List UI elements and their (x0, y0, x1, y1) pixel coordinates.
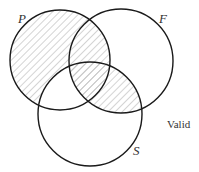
label-p: P (18, 12, 26, 25)
label-f: F (159, 12, 167, 25)
verdict-text: Valid (167, 119, 190, 130)
shaded-region-fs (0, 0, 199, 172)
venn-diagram (0, 0, 199, 172)
label-s: S (133, 144, 140, 157)
